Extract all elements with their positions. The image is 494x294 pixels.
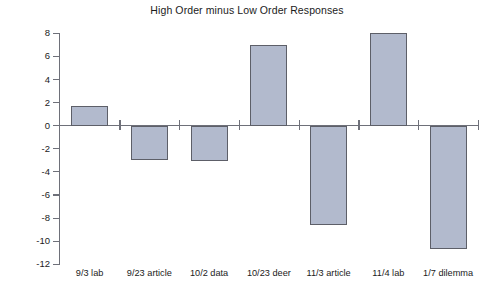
y-tick (53, 56, 60, 57)
x-tick (179, 120, 180, 130)
x-tick-label: 10/23 deer (247, 268, 291, 278)
y-tick (53, 241, 60, 242)
y-tick-label: 6 (26, 50, 50, 61)
y-tick (53, 125, 60, 126)
x-tick (478, 120, 479, 130)
x-tick (239, 120, 240, 130)
y-tick (53, 33, 60, 34)
x-tick (358, 120, 359, 130)
x-tick (418, 120, 419, 130)
bar (131, 126, 168, 161)
bar (71, 106, 108, 126)
y-tick-label: -4 (26, 165, 50, 176)
y-tick-label: -8 (26, 212, 50, 223)
y-tick-label: -12 (26, 258, 50, 269)
y-tick-label: 2 (26, 96, 50, 107)
y-tick (53, 171, 60, 172)
x-tick-label: 10/2 data (190, 268, 228, 278)
chart-root: High Order minus Low Order Responses Dif… (0, 0, 494, 294)
y-tick-label: 0 (26, 119, 50, 130)
x-tick-label: 9/3 lab (76, 268, 104, 278)
y-tick (53, 264, 60, 265)
x-tick-label: 1/7 dilemma (423, 268, 473, 278)
x-tick-label: 11/4 lab (372, 268, 404, 278)
x-tick (119, 120, 120, 130)
bar (250, 45, 287, 126)
bar (310, 126, 347, 225)
y-tick-label: 4 (26, 73, 50, 84)
y-tick-label: -2 (26, 142, 50, 153)
bar (430, 126, 467, 250)
x-tick (299, 120, 300, 130)
y-tick-label: 8 (26, 27, 50, 38)
x-tick-label: 11/3 article (306, 268, 350, 278)
bar (191, 126, 228, 162)
y-tick (53, 102, 60, 103)
y-tick-label: -10 (26, 235, 50, 246)
y-tick (53, 148, 60, 149)
x-tick-label: 9/23 article (127, 268, 172, 278)
plot-area: 86420-2-4-6-8-10-12 (0, 0, 494, 294)
y-tick (53, 79, 60, 80)
bar (370, 33, 407, 125)
y-tick-label: -6 (26, 189, 50, 200)
y-tick (53, 194, 60, 195)
y-tick (53, 218, 60, 219)
